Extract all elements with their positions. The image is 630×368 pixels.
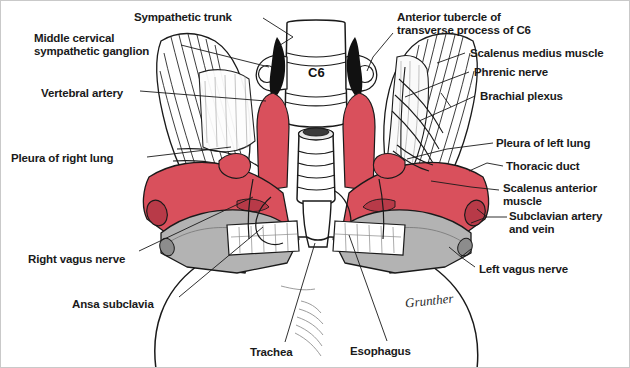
label-sympathetic-trunk: Sympathetic trunk (134, 11, 232, 24)
label-left-vagus-nerve: Left vagus nerve (479, 263, 568, 276)
label-phrenic-nerve: Phrenic nerve (474, 66, 548, 79)
label-subclavian-artery-and-vein: Subclavian artery and vein (509, 210, 602, 235)
label-right-vagus-nerve: Right vagus nerve (28, 253, 125, 266)
label-anterior-tubercle-of-transverse-process-of-c6: Anterior tubercle of transverse process … (397, 11, 531, 36)
anatomy-figure: Sympathetic trunk Middle cervical sympat… (0, 0, 630, 368)
label-trachea: Trachea (250, 346, 292, 359)
label-brachial-plexus: Brachial plexus (480, 90, 563, 103)
label-c6-vertebra: C6 (308, 67, 325, 80)
label-pleura-of-right-lung: Pleura of right lung (11, 152, 113, 165)
label-scalenus-anterior-muscle: Scalenus anterior muscle (503, 182, 597, 207)
label-vertebral-artery: Vertebral artery (41, 87, 123, 100)
label-middle-cervical-sympathetic-ganglion: Middle cervical sympathetic ganglion (34, 32, 149, 57)
trachea (297, 128, 335, 247)
label-thoracic-duct: Thoracic duct (506, 160, 579, 173)
label-esophagus: Esophagus (350, 345, 411, 358)
label-pleura-of-left-lung: Pleura of left lung (496, 137, 590, 150)
label-ansa-subclavia: Ansa subclavia (72, 298, 154, 311)
label-scalenus-medius-muscle: Scalenus medius muscle (470, 47, 603, 60)
